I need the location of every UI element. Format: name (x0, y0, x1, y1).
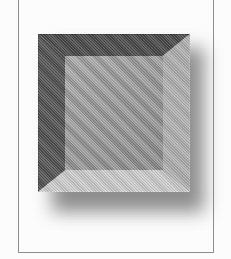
figure-page (0, 0, 231, 259)
inner-panel-shading (65, 56, 162, 170)
beveled-square-object (38, 34, 190, 192)
page-rule-left (18, 0, 19, 253)
page-rule-bottom (18, 252, 214, 253)
inner-recessed-panel (65, 56, 162, 170)
page-rule-right (213, 0, 214, 253)
inner-panel-dither-texture (65, 56, 162, 170)
